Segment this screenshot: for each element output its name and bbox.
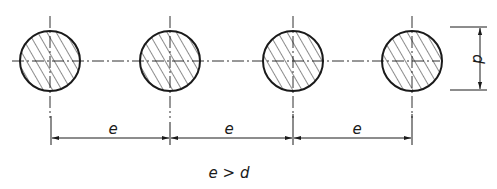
condition-caption: e > d bbox=[209, 164, 250, 182]
circle-section-3 bbox=[263, 16, 323, 118]
circle-section-1 bbox=[20, 16, 80, 118]
spacing-label-3: e bbox=[352, 120, 361, 138]
diagram-canvas: e e e d e > d bbox=[0, 0, 497, 189]
circle-section-4 bbox=[382, 16, 442, 118]
diameter-label: d bbox=[469, 54, 487, 64]
circle-section-2 bbox=[140, 16, 200, 118]
spacing-label-2: e bbox=[224, 120, 233, 138]
spacing-label-1: e bbox=[108, 120, 117, 138]
